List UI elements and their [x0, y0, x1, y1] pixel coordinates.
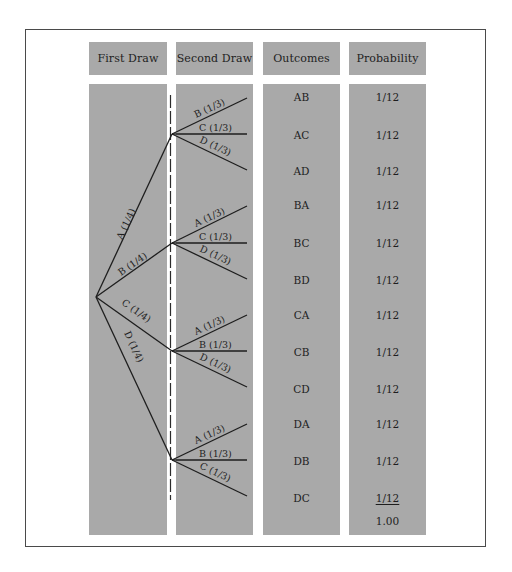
header-outcomes: Outcomes [263, 42, 340, 75]
second-draw-panel [176, 84, 253, 535]
probability-cell-last: 1/12 [349, 492, 426, 504]
probability-cell: 1/12 [349, 165, 426, 177]
outcome-cell: AD [263, 165, 340, 177]
probability-cell: 1/12 [349, 455, 426, 467]
probability-cell: 1/12 [349, 346, 426, 358]
header-outcomes-label: Outcomes [273, 52, 330, 65]
header-first-draw-label: First Draw [97, 52, 158, 65]
probability-cell: 1/12 [349, 383, 426, 395]
probability-cell: 1/12 [349, 418, 426, 430]
outcome-cell: BD [263, 274, 340, 286]
probability-cell: 1/12 [349, 274, 426, 286]
outcome-cell: DA [263, 418, 340, 430]
probability-cell: 1/12 [349, 91, 426, 103]
probability-total: 1.00 [349, 515, 426, 527]
outcome-cell: CD [263, 383, 340, 395]
outcomes-panel: AB AC AD BA BC BD CA CB CD DA DB DC [263, 84, 340, 535]
header-probability: Probability [349, 42, 426, 75]
header-second-draw: Second Draw [176, 42, 253, 75]
outcome-cell: BC [263, 237, 340, 249]
outcome-cell: AB [263, 91, 340, 103]
probability-cell: 1/12 [349, 237, 426, 249]
header-probability-label: Probability [356, 52, 418, 65]
probability-cell: 1/12 [349, 129, 426, 141]
probability-panel: 1/12 1/12 1/12 1/12 1/12 1/12 1/12 1/12 … [349, 84, 426, 535]
outcome-cell: CA [263, 309, 340, 321]
outcome-cell: DB [263, 455, 340, 467]
outcome-cell: AC [263, 129, 340, 141]
outcome-cell: DC [263, 492, 340, 504]
first-draw-panel [89, 84, 167, 535]
outcome-cell: BA [263, 199, 340, 211]
outcome-cell: CB [263, 346, 340, 358]
probability-cell: 1/12 [349, 309, 426, 321]
probability-cell: 1/12 [349, 199, 426, 211]
header-second-draw-label: Second Draw [177, 52, 253, 65]
header-first-draw: First Draw [89, 42, 167, 75]
